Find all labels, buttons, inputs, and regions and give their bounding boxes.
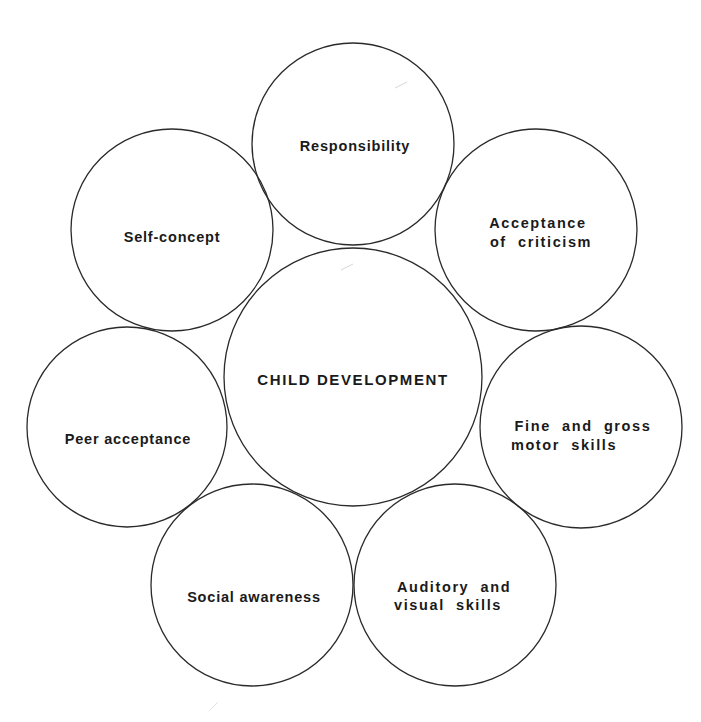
node-label-line-2: of criticism <box>490 234 592 250</box>
node-circle <box>27 327 227 527</box>
node-label-line-1: Fine and gross <box>515 418 652 434</box>
node-label-line-2: visual skills <box>394 597 502 613</box>
node-auditory-and-visual-skills: Auditory and visual skills <box>354 484 556 686</box>
node-self-concept: Self-concept <box>71 129 273 331</box>
node-responsibility: Responsibility <box>252 43 454 245</box>
node-social-awareness: Social awareness <box>151 484 353 686</box>
node-label: Peer acceptance <box>65 431 191 447</box>
node-label-line-1: Auditory and <box>397 579 511 595</box>
child-development-diagram: CHILD DEVELOPMENT Responsibility Accepta… <box>0 0 701 722</box>
center-node: CHILD DEVELOPMENT <box>224 248 482 506</box>
node-label: Self-concept <box>124 229 221 245</box>
node-label: Social awareness <box>187 589 321 605</box>
node-label-line-2: motor skills <box>511 437 617 453</box>
node-acceptance-of-criticism: Acceptance of criticism <box>435 129 637 331</box>
node-label-line-1: Acceptance <box>489 215 586 231</box>
scan-artifact <box>210 702 218 710</box>
node-label: Responsibility <box>300 138 410 154</box>
node-circle <box>151 484 353 686</box>
center-label: CHILD DEVELOPMENT <box>257 371 448 388</box>
node-fine-and-gross-motor-skills: Fine and gross motor skills <box>480 326 682 528</box>
node-peer-acceptance: Peer acceptance <box>27 327 227 527</box>
